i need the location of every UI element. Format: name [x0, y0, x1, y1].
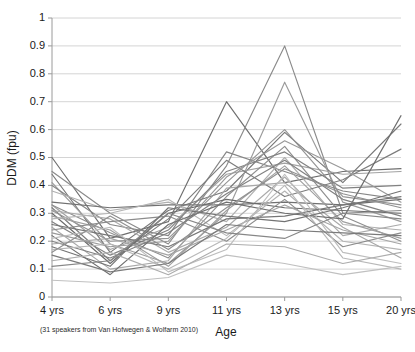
y-tick-label: 0 — [39, 290, 45, 302]
x-axis-title: Age — [215, 325, 237, 339]
spaghetti-line-chart: 00.10.20.30.40.50.60.70.80.91 4 yrs6 yrs… — [0, 0, 415, 352]
y-tick-label: 0.4 — [30, 178, 45, 190]
y-tick-label: 0.6 — [30, 123, 45, 135]
y-axis-ticks: 00.10.20.30.40.50.60.70.80.91 — [30, 11, 52, 302]
chart-figure: 00.10.20.30.40.50.60.70.80.91 4 yrs6 yrs… — [0, 0, 415, 352]
x-tick-label: 13 yrs — [270, 304, 300, 316]
data-series-group — [52, 46, 401, 283]
x-tick-label: 20 yrs — [386, 304, 415, 316]
x-tick-label: 11 yrs — [212, 304, 242, 316]
series-line — [52, 82, 401, 263]
y-tick-label: 0.2 — [30, 234, 45, 246]
x-tick-label: 6 yrs — [98, 304, 122, 316]
y-axis-title: DDM (fpu) — [5, 130, 19, 185]
y-tick-label: 0.9 — [30, 39, 45, 51]
x-tick-label: 4 yrs — [40, 304, 64, 316]
y-tick-label: 1 — [39, 11, 45, 23]
y-tick-label: 0.8 — [30, 67, 45, 79]
x-tick-label: 9 yrs — [156, 304, 180, 316]
x-tick-label: 15 yrs — [328, 304, 358, 316]
source-caption: (31 speakers from Van Hofwegen & Wolfarm… — [40, 326, 198, 334]
y-tick-label: 0.1 — [30, 262, 45, 274]
x-axis-ticks: 4 yrs6 yrs9 yrs11 yrs13 yrs15 yrs20 yrs — [40, 297, 415, 316]
y-tick-label: 0.3 — [30, 206, 45, 218]
y-tick-label: 0.5 — [30, 150, 45, 162]
y-tick-label: 0.7 — [30, 95, 45, 107]
